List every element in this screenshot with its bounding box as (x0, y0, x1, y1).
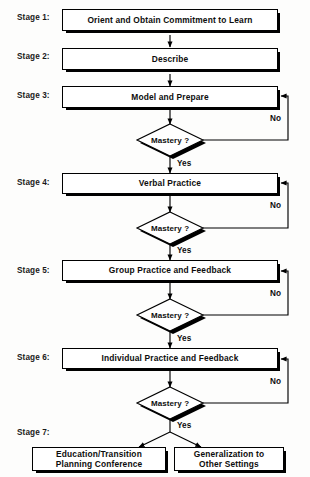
process-box-stage-2[interactable]: Describe (62, 48, 278, 70)
process-box-stage-5[interactable]: Group Practice and Feedback (62, 260, 278, 281)
decision-mastery-1[interactable]: Mastery ? (137, 124, 203, 156)
edge-label-no-4: No (270, 377, 281, 386)
box-shadow-right (165, 451, 168, 473)
process-box-stage-1-text: Orient and Obtain Commitment to Learn (87, 15, 252, 26)
stage-label-4: Stage 4: (17, 178, 50, 188)
box-shadow-bottom (66, 280, 280, 283)
connector-fork-right (170, 432, 201, 447)
box-shadow-bottom (66, 107, 280, 110)
decision-mastery-2-label: Mastery ? (137, 224, 203, 233)
process-box-stage-4[interactable]: Verbal Practice (62, 173, 278, 194)
stage-label-1: Stage 1: (17, 13, 50, 23)
edge-label-yes-4: Yes (177, 421, 191, 430)
edge-label-yes-2: Yes (177, 246, 191, 255)
outcome-box-generalization[interactable]: Generalization to Other Settings (174, 447, 284, 471)
process-box-stage-6-text: Individual Practice and Feedback (102, 353, 239, 364)
decision-mastery-3-label: Mastery ? (137, 311, 203, 320)
outcome-box-generalization-line2: Other Settings (199, 459, 259, 470)
stage-label-2: Stage 2: (17, 52, 50, 62)
edge-label-no-2: No (270, 201, 281, 210)
box-shadow-right (277, 13, 280, 33)
outcome-box-education-transition[interactable]: Education/Transition Planning Conference (32, 447, 166, 471)
outcome-box-generalization-line1: Generalization to (194, 449, 265, 460)
process-box-stage-5-text: Group Practice and Feedback (109, 265, 231, 276)
process-box-stage-4-text: Verbal Practice (139, 178, 201, 189)
box-shadow-right (277, 90, 280, 110)
connector-fork-left (139, 432, 170, 447)
process-box-stage-2-text: Describe (152, 54, 189, 65)
box-shadow-bottom (178, 470, 286, 473)
outcome-box-education-transition-line2: Planning Conference (56, 459, 143, 470)
flowchart-canvas: Stage 1: Stage 2: Stage 3: Stage 4: Stag… (0, 0, 310, 477)
decision-mastery-2[interactable]: Mastery ? (137, 212, 203, 244)
stage-label-7: Stage 7: (17, 428, 50, 438)
process-box-stage-3-text: Model and Prepare (131, 92, 208, 103)
box-shadow-bottom (66, 368, 280, 371)
box-shadow-right (277, 177, 280, 196)
box-shadow-right (277, 52, 280, 72)
edge-label-yes-3: Yes (177, 334, 191, 343)
process-box-stage-1[interactable]: Orient and Obtain Commitment to Learn (62, 9, 278, 31)
box-shadow-bottom (66, 30, 280, 33)
process-box-stage-6[interactable]: Individual Practice and Feedback (62, 348, 278, 369)
outcome-box-education-transition-line1: Education/Transition (56, 449, 142, 460)
box-shadow-right (283, 451, 286, 473)
stage-label-5: Stage 5: (17, 266, 50, 276)
stage-label-3: Stage 3: (17, 91, 50, 101)
box-shadow-bottom (36, 470, 168, 473)
decision-mastery-4[interactable]: Mastery ? (137, 387, 203, 419)
decision-mastery-3[interactable]: Mastery ? (137, 299, 203, 331)
process-box-stage-3[interactable]: Model and Prepare (62, 86, 278, 108)
decision-mastery-4-label: Mastery ? (137, 399, 203, 408)
box-shadow-right (277, 352, 280, 371)
edge-label-yes-1: Yes (177, 159, 191, 168)
box-shadow-right (277, 264, 280, 283)
box-shadow-bottom (66, 69, 280, 72)
edge-label-no-1: No (270, 114, 281, 123)
edge-label-no-3: No (270, 289, 281, 298)
box-shadow-bottom (66, 193, 280, 196)
decision-mastery-1-label: Mastery ? (137, 136, 203, 145)
stage-label-6: Stage 6: (17, 353, 50, 363)
